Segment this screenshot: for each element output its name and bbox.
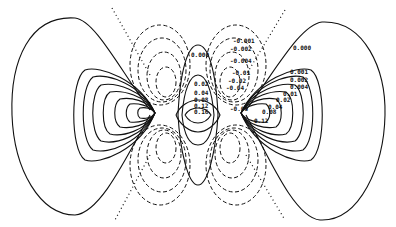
contour-label: 0.000 (293, 45, 311, 51)
contour-label: 0.16 (194, 109, 208, 115)
contour-label: -0.08 (230, 106, 248, 112)
contour-figure: 0.000 0.02 0.04 0.08 0.12 0.16 0.000 0.0… (0, 0, 396, 227)
outer-left-contour (12, 18, 150, 215)
contour-label: -0.01 (232, 70, 250, 76)
right-positive-contours (241, 69, 322, 161)
left-positive-contours (74, 69, 155, 161)
contour-label: -0.04 (226, 85, 244, 91)
contour-label: 0.12 (254, 118, 268, 124)
contour-label: 0.02 (194, 81, 208, 87)
center-positive-contours (176, 45, 220, 185)
contour-label: -0.001 (233, 38, 255, 44)
contour-label: 0.001 (290, 69, 308, 75)
contour-label: -0.004 (230, 58, 252, 64)
contour-label: 0.000 (191, 52, 209, 58)
contour-label: -0.002 (230, 46, 252, 52)
contour-label: 0.08 (262, 109, 276, 115)
